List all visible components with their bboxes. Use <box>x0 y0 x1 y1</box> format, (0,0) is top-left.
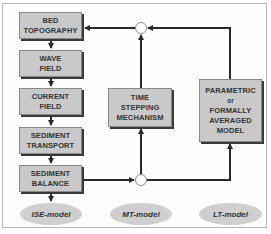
box-label: TOPOGRAPHY <box>23 26 77 36</box>
box-label: FIELD <box>39 64 61 74</box>
box-current-field: CURRENT FIELD <box>19 88 82 115</box>
box-parametric-model: PARAMETRIC or FORMALLY AVERAGED MODEL <box>199 79 262 142</box>
box-label: PARAMETRIC <box>205 86 255 96</box>
ellipse-ise-model: ISE-model <box>20 203 82 225</box>
box-label: MODEL <box>217 126 245 136</box>
box-wave-field: WAVE FIELD <box>19 50 82 77</box>
box-label: FORMALLY <box>210 106 252 116</box>
box-label: SEDIMENT <box>31 131 71 141</box>
ellipse-label: LT-model <box>213 210 248 219</box>
ellipse-mt-model: MT-model <box>110 203 172 225</box>
box-label: FIELD <box>39 102 61 112</box>
box-label: STEPPING <box>121 103 160 113</box>
box-label: BED <box>42 16 58 26</box>
box-label: SEDIMENT <box>31 169 71 179</box>
junction-bottom <box>136 175 147 186</box>
ellipse-lt-model: LT-model <box>199 203 262 225</box>
ellipse-label: ISE-model <box>31 210 70 219</box>
box-sediment-balance: SEDIMENT BALANCE <box>19 165 82 192</box>
box-label: TRANSPORT <box>27 141 75 151</box>
box-label: CURRENT <box>32 92 69 102</box>
box-time-stepping-mechanism: TIME STEPPING MECHANISM <box>108 88 172 127</box>
box-label: MECHANISM <box>116 113 163 123</box>
box-label: BALANCE <box>32 179 69 189</box>
box-label: AVERAGED <box>209 116 252 126</box>
junction-top <box>136 23 147 34</box>
box-label: or <box>227 96 234 106</box>
ellipse-label: MT-model <box>122 210 159 219</box>
box-label: WAVE <box>40 54 62 64</box>
box-sediment-transport: SEDIMENT TRANSPORT <box>19 127 82 154</box>
box-label: TIME <box>131 93 149 103</box>
box-bed-topography: BED TOPOGRAPHY <box>19 12 82 39</box>
